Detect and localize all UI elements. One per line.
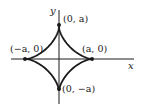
y-axis-label: y xyxy=(50,6,56,16)
point-left-label: (−a, 0) xyxy=(10,44,43,54)
point-bottom-dot xyxy=(57,87,61,91)
point-right-label: (a, 0) xyxy=(82,44,107,54)
point-top-label: (0, a) xyxy=(63,14,88,24)
point-top-dot xyxy=(57,23,61,27)
x-axis-label: x xyxy=(128,61,134,71)
point-right-dot xyxy=(90,57,94,61)
point-left-dot xyxy=(23,57,27,61)
point-bottom-label: (0, −a) xyxy=(62,84,95,94)
